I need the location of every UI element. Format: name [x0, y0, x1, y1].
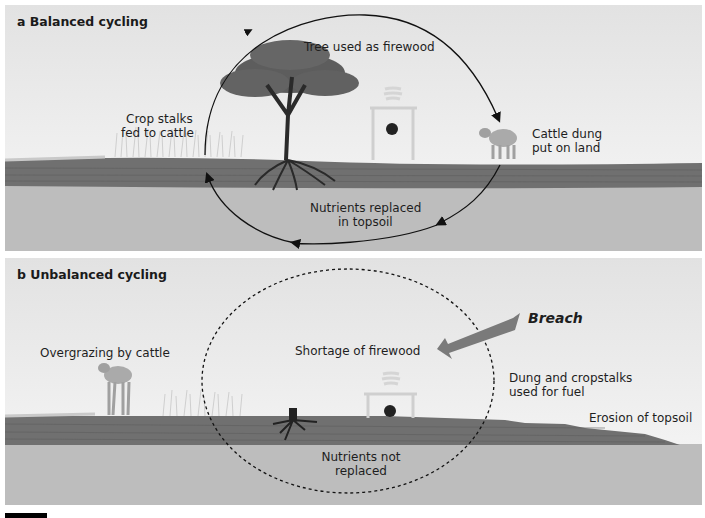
label-crop-stalks-1: Crop stalks	[126, 112, 193, 126]
label-tree-firewood: Tree used as firewood	[304, 40, 435, 54]
label-cattle-dung-2: put on land	[532, 141, 600, 155]
label-erosion: Erosion of topsoil	[589, 411, 692, 425]
panel-b-title: b Unbalanced cycling	[17, 267, 167, 282]
label-shortage-firewood: Shortage of firewood	[295, 344, 420, 358]
panel-unbalanced-cycling: b Unbalanced cycling Overgrazing by catt…	[5, 258, 702, 505]
panel-a-title: a Balanced cycling	[17, 14, 148, 29]
label-breach: Breach	[528, 311, 583, 325]
label-dung-cropstalks-1: Dung and cropstalks	[509, 371, 632, 385]
panel-balanced-cycling: a Balanced cycling Tree used as firewood…	[5, 5, 702, 251]
label-nutrients-replaced-2: in topsoil	[338, 215, 393, 229]
label-nutrients-not-replaced-1: Nutrients not	[316, 450, 406, 464]
label-cattle-dung-1: Cattle dung	[532, 127, 602, 141]
label-crop-stalks-2: fed to cattle	[121, 126, 194, 140]
label-nutrients-not-replaced-2: replaced	[316, 464, 406, 478]
figure-marker-bar	[5, 513, 47, 518]
label-dung-cropstalks-2: used for fuel	[509, 385, 585, 399]
label-nutrients-replaced-1: Nutrients replaced	[310, 201, 421, 215]
label-overgrazing: Overgrazing by cattle	[40, 346, 170, 360]
